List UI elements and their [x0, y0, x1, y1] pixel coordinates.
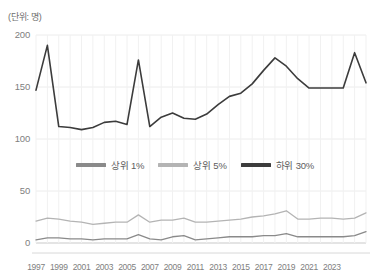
chart-plot-area	[0, 0, 390, 280]
y-axis-tick-label: 150	[2, 81, 30, 92]
legend-item[interactable]: 상위 1%	[76, 158, 144, 172]
y-axis-tick-label: 200	[2, 29, 30, 40]
x-axis-tick-label: 2013	[209, 262, 227, 272]
legend-swatch-icon	[158, 163, 188, 167]
y-axis-tick-label: 100	[2, 133, 30, 144]
legend-label: 상위 5%	[193, 158, 226, 172]
x-axis-tick-label: 2001	[73, 262, 91, 272]
legend-label: 상위 1%	[111, 158, 144, 172]
chart-container: (단위: 명) 050100150200 1997199920012003200…	[0, 0, 390, 280]
x-axis-tick-label: 2003	[95, 262, 113, 272]
legend-item[interactable]: 상위 5%	[158, 158, 226, 172]
series-line	[36, 211, 366, 225]
x-axis-tick-label: 2017	[255, 262, 273, 272]
legend-swatch-icon	[76, 163, 106, 167]
y-axis-tick-label: 0	[2, 237, 30, 248]
x-axis-tick-label: 2007	[141, 262, 159, 272]
series-line	[36, 232, 366, 240]
series-line	[36, 45, 366, 129]
x-axis-tick-label: 2005	[118, 262, 136, 272]
x-axis-tick-label: 2011	[187, 262, 204, 272]
chart-legend: 상위 1%상위 5%하위 30%	[0, 158, 390, 172]
y-axis-tick-label: 50	[2, 185, 30, 196]
legend-label: 하위 30%	[276, 158, 314, 172]
x-axis-tick-label: 2021	[300, 262, 318, 272]
x-axis-tick-label: 2019	[277, 262, 295, 272]
legend-swatch-icon	[241, 163, 271, 167]
x-axis-tick-label: 1997	[27, 262, 45, 272]
x-axis-tick-label: 2023	[323, 262, 341, 272]
x-axis-tick-label: 2009	[164, 262, 182, 272]
series-lines	[36, 45, 366, 239]
x-axis-tick-label: 2015	[232, 262, 250, 272]
gridlines	[36, 35, 366, 243]
x-axis-tick-label: 1999	[50, 262, 68, 272]
legend-item[interactable]: 하위 30%	[241, 158, 314, 172]
